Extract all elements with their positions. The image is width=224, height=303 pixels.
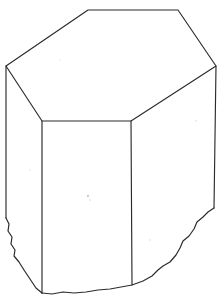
paper-speck	[87, 195, 89, 197]
hexagonal-prism-drawing	[0, 0, 224, 303]
paper-speck	[149, 239, 150, 240]
paper-speck	[89, 199, 91, 201]
paper-speck	[29, 169, 30, 170]
paper-speck	[195, 120, 196, 121]
paper-speck	[59, 59, 60, 60]
front-side-face-fill	[42, 121, 132, 293]
figure-container	[0, 0, 224, 303]
